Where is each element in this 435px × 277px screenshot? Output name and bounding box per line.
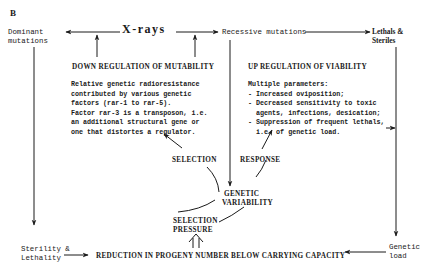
label-selection: SELECTION <box>172 155 217 165</box>
up-regulation-line-3: - Decreased sensitivity to toxic <box>248 99 376 109</box>
down-regulation-title: DOWN REGULATION OF MUTABILITY <box>72 62 214 72</box>
curve-selpressure-variability-bottom <box>219 207 244 222</box>
double-arrow-head <box>189 234 203 242</box>
node-selection-pressure-line2: PRESSURE <box>173 225 213 235</box>
down-regulation-line-5: an additional structural gene or <box>71 118 199 128</box>
up-regulation-title: UP REGULATION OF VIABILITY <box>248 62 367 72</box>
node-recessive-mutations: Recessive mutations <box>222 27 306 37</box>
node-lethals-steriles-line2: Steriles <box>372 36 395 46</box>
up-regulation-line-6: i.e. of genetic load. <box>248 128 340 138</box>
node-dominant-mutations-line2: mutations <box>8 36 48 46</box>
panel-label: B <box>10 8 16 18</box>
node-genetic-load-line2: load <box>389 251 407 261</box>
label-response: RESPONSE <box>240 155 280 165</box>
up-regulation-line-1: Multiple parameters: <box>248 80 328 90</box>
down-regulation-line-6: one that distortes a regulator. <box>71 128 195 138</box>
double-arrow-shaft <box>193 238 199 248</box>
down-regulation-line-1: Relative genetic radioresistance <box>71 80 199 90</box>
up-regulation-line-2: - Increased oviposition; <box>248 90 344 100</box>
down-regulation-line-3: factors (rar-1 to rar-5). <box>71 99 171 109</box>
node-genetic-variability-line2: VARIABILITY <box>222 198 273 208</box>
curve-selection-variability <box>207 167 219 192</box>
diagram-arrows <box>0 0 435 277</box>
down-regulation-line-4: Factor rar-3 is a transposon, i.e. <box>71 109 207 119</box>
node-xrays: X-rays <box>122 24 166 34</box>
node-reduction-in-progeny: REDUCTION IN PROGENY NUMBER BELOW CARRYI… <box>96 251 345 261</box>
node-sterility-lethality-line2: Lethality <box>21 253 61 263</box>
up-regulation-line-4: agents, infections, desication; <box>248 109 380 119</box>
curve-variability-selpressure-top <box>178 200 215 212</box>
down-regulation-line-2: contributed by various genetic <box>71 90 191 100</box>
up-regulation-line-5: - Suppression of frequent lethals, <box>248 118 384 128</box>
